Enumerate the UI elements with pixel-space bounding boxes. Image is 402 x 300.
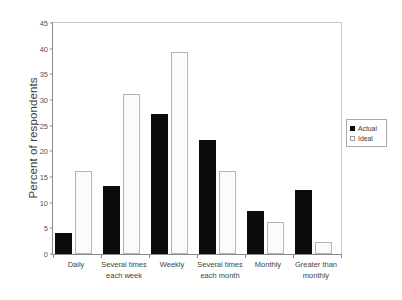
chart-legend: Actual Ideal <box>346 119 387 147</box>
x-axis-label-line: monthly <box>292 271 340 282</box>
x-axis-tick-mark <box>293 254 294 258</box>
y-axis-tick-mark <box>50 151 53 152</box>
x-axis-label: Greater thanmonthly <box>292 260 340 281</box>
x-axis-label-line: Several times <box>196 260 244 271</box>
x-axis-label-line: Weekly <box>148 260 196 271</box>
bar-group <box>245 23 293 254</box>
x-axis-tick-mark <box>53 254 54 258</box>
bar-ideal <box>219 171 236 254</box>
x-axis-label: Daily <box>52 260 100 271</box>
bar-actual <box>103 186 120 254</box>
bar-actual <box>55 233 72 254</box>
x-axis-label-line: Monthly <box>244 260 292 271</box>
y-axis-tick-mark <box>50 202 53 203</box>
bar-ideal <box>315 242 332 254</box>
x-axis-tick-mark <box>101 254 102 258</box>
x-axis-label: Several timeseach week <box>100 260 148 281</box>
legend-item-ideal: Ideal <box>350 133 383 143</box>
bar-actual <box>295 190 312 254</box>
y-axis-tick-mark <box>50 74 53 75</box>
x-axis-tick-mark <box>341 254 342 258</box>
legend-label-actual: Actual <box>358 125 377 132</box>
x-axis-tick-mark <box>149 254 150 258</box>
bar-actual <box>151 114 168 254</box>
bar-actual <box>199 140 216 254</box>
x-axis-labels: DailySeveral timeseach weekWeeklySeveral… <box>52 260 340 294</box>
y-axis-tick-mark <box>50 177 53 178</box>
open-square-icon <box>350 136 355 141</box>
legend-label-ideal: Ideal <box>358 135 373 142</box>
y-axis-tick-mark <box>50 48 53 49</box>
x-axis-label-line: Greater than <box>292 260 340 271</box>
bar-ideal <box>75 171 92 254</box>
x-axis-label-line: each week <box>100 271 148 282</box>
bar-group <box>293 23 341 254</box>
x-axis-label-line: each month <box>196 271 244 282</box>
bar-ideal <box>123 94 140 254</box>
bar-actual <box>247 211 264 254</box>
bar-chart-figure: Percent of respondents 05101520253035404… <box>0 0 402 300</box>
y-axis-title: Percent of respondents <box>27 23 39 253</box>
x-axis-tick-mark <box>197 254 198 258</box>
bars-layer <box>53 23 341 254</box>
y-axis-tick-mark <box>50 23 53 24</box>
y-axis-tick-mark <box>50 125 53 126</box>
x-axis-label: Monthly <box>244 260 292 271</box>
bar-group <box>53 23 101 254</box>
x-axis-label-line: Daily <box>52 260 100 271</box>
bar-ideal <box>267 222 284 254</box>
y-axis-tick-mark <box>50 100 53 101</box>
x-axis-label: Several timeseach month <box>196 260 244 281</box>
x-axis-label-line: Several times <box>100 260 148 271</box>
filled-square-icon <box>350 126 355 131</box>
legend-item-actual: Actual <box>350 123 383 133</box>
plot-area: 051015202530354045 <box>52 22 342 255</box>
x-axis-label: Weekly <box>148 260 196 271</box>
bar-group <box>149 23 197 254</box>
bar-group <box>197 23 245 254</box>
bar-group <box>101 23 149 254</box>
y-axis-tick-mark <box>50 228 53 229</box>
bar-ideal <box>171 52 188 254</box>
x-axis-tick-mark <box>245 254 246 258</box>
